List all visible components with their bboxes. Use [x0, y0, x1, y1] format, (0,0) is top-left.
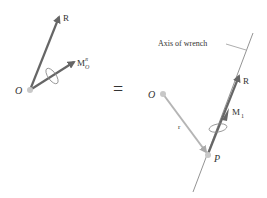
moment-sup-left: R	[84, 57, 88, 62]
moment-label-right: M	[232, 107, 240, 117]
axis-leader	[226, 44, 246, 50]
equals-sign: =	[113, 79, 123, 99]
moment-sub-left: O	[85, 64, 90, 70]
position-label: r	[178, 123, 181, 131]
axis-label: Axis of wrench	[158, 39, 207, 48]
resultant-arrow-left	[30, 17, 59, 90]
point-p	[205, 152, 211, 158]
left-system: O R M R O	[15, 13, 90, 96]
moment-sub-right: 1	[241, 113, 244, 119]
diagram-canvas: O R M R O = Axis of wrench O P r R M 1	[0, 0, 267, 198]
moment-label-left: M	[77, 58, 85, 68]
origin-label-left: O	[15, 85, 22, 96]
resultant-label-left: R	[63, 13, 69, 23]
origin-label-right: O	[148, 89, 155, 100]
position-vector-r	[163, 94, 206, 152]
resultant-label-right: R	[243, 76, 249, 86]
wrench-diagram: O R M R O = Axis of wrench O P r R M 1	[0, 0, 267, 198]
origin-point-left	[27, 87, 33, 93]
right-system: Axis of wrench O P r R M 1	[148, 33, 253, 192]
point-label: P	[213, 153, 220, 164]
origin-point-right	[160, 91, 166, 97]
wrench-axis	[193, 33, 253, 192]
